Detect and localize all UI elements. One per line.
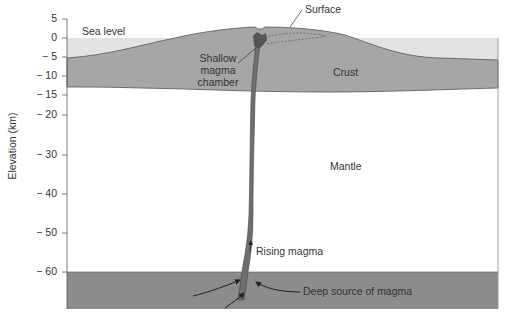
surface-leader [290, 10, 302, 27]
mantle-label: Mantle [330, 160, 362, 172]
shallow-chamber-label-line2: magma [192, 64, 244, 76]
tick-minus5: − 5 [7, 50, 57, 62]
volcano-cross-section [0, 0, 506, 317]
surface-label: Surface [305, 3, 341, 15]
tick-5: 5 [7, 12, 57, 24]
tick-minus40: − 40 [7, 187, 57, 199]
sea-level-label: Sea level [82, 25, 125, 37]
y-axis-label: Elevation (km) [6, 112, 18, 179]
crust-layer [67, 27, 498, 92]
tick-minus60: − 60 [7, 265, 57, 277]
tick-minus10: − 10 [7, 69, 57, 81]
rising-magma-label: Rising magma [256, 245, 323, 257]
tick-minus50: − 50 [7, 226, 57, 238]
tick-0: 0 [7, 31, 57, 43]
shallow-chamber-label: Shallow magma chamber [192, 52, 244, 88]
shallow-chamber-label-line3: chamber [192, 76, 244, 88]
shallow-chamber-label-line1: Shallow [192, 52, 244, 64]
y-axis-ticks [62, 19, 67, 272]
tick-minus15: − 15 [7, 88, 57, 100]
crust-label: Crust [333, 66, 358, 78]
deep-source-label: Deep source of magma [303, 285, 412, 297]
